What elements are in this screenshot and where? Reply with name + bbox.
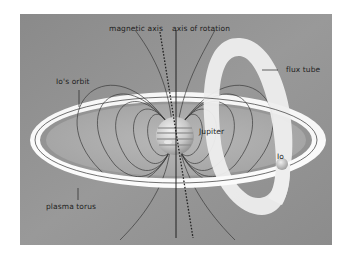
jupiter-magnetosphere-diagram: magnetic axis axis of rotation Io's orbi… <box>0 0 344 255</box>
label-axis-of-rotation: axis of rotation <box>172 25 230 33</box>
label-flux-tube: flux tube <box>286 66 320 74</box>
diagram-canvas <box>0 0 344 255</box>
label-magnetic-axis: magnetic axis <box>109 25 163 33</box>
label-jupiter: Jupiter <box>199 128 224 136</box>
label-plasma-torus: plasma torus <box>46 203 96 211</box>
label-ios-orbit: Io's orbit <box>56 78 90 86</box>
label-io: Io <box>277 153 284 161</box>
jupiter-planet <box>156 117 194 155</box>
